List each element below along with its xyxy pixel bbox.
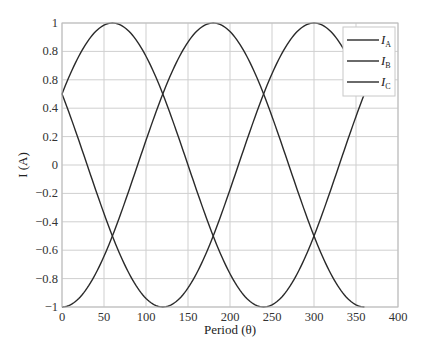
y-tick-label: 0.4 xyxy=(42,101,58,115)
x-axis-label: Period (θ) xyxy=(204,322,256,337)
x-tick-label: 350 xyxy=(347,310,366,324)
y-tick-label: −0.2 xyxy=(35,186,58,200)
y-axis-label: I (A) xyxy=(15,152,30,178)
x-tick-label: 150 xyxy=(179,310,198,324)
x-tick-label: 100 xyxy=(137,310,156,324)
y-tick-label: −1 xyxy=(45,300,58,314)
legend: IAIBIC xyxy=(343,27,395,96)
y-tick-label: −0.6 xyxy=(35,243,58,257)
y-tick-label: 0 xyxy=(52,158,58,172)
x-tick-label: 250 xyxy=(263,310,282,324)
y-tick-label: 1 xyxy=(52,16,58,30)
x-tick-label: 400 xyxy=(389,310,408,324)
y-tick-label: 0.8 xyxy=(42,73,58,87)
x-tick-label: 0 xyxy=(59,310,65,324)
x-tick-label: 50 xyxy=(98,310,111,324)
y-tick-label: 0.8 xyxy=(42,44,58,58)
y-axis-ticks: 10.80.80.40.20−0.2−0.4−0.6−0.8−1 xyxy=(35,16,58,314)
y-tick-label: −0.4 xyxy=(35,215,58,229)
y-tick-label: 0.2 xyxy=(42,130,58,144)
line-chart: 050100150200250300350400 10.80.80.40.20−… xyxy=(0,0,430,353)
x-tick-label: 300 xyxy=(305,310,324,324)
y-tick-label: −0.8 xyxy=(35,272,58,286)
